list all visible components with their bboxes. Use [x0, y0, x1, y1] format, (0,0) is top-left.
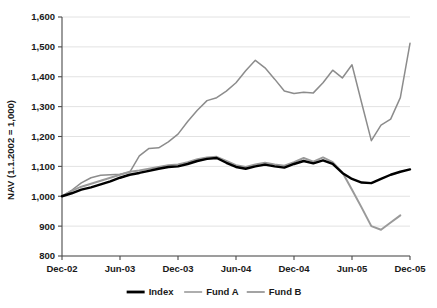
x-tick-label-Jun-05: Jun-05 [337, 263, 368, 274]
y-tick-label-900: 900 [39, 221, 55, 232]
y-tick-label-1400: 1,400 [31, 71, 55, 82]
y-tick-label-1000: 1,000 [31, 191, 55, 202]
y-tick-label-1600: 1,600 [31, 11, 55, 22]
y-tick-label-800: 800 [39, 250, 55, 261]
y-tick-label-1500: 1,500 [31, 41, 55, 52]
chart-legend: IndexFund AFund B [127, 286, 302, 297]
y-axis-title: NAV (1.1.2002 = 1,000) [5, 100, 16, 200]
nav-performance-line-chart: 8009001,0001,1001,2001,3001,4001,5001,60… [0, 0, 437, 308]
chart-background [0, 0, 437, 308]
y-tick-label-1100: 1,100 [31, 161, 55, 172]
legend-label-fund-b: Fund B [269, 286, 302, 297]
legend-label-index: Index [149, 286, 175, 297]
x-tick-label-Jun-04: Jun-04 [221, 263, 252, 274]
x-tick-label-Dec-03: Dec-03 [162, 263, 193, 274]
legend-label-fund-a: Fund A [206, 286, 238, 297]
x-tick-label-Dec-02: Dec-02 [46, 263, 77, 274]
y-tick-label-1300: 1,300 [31, 101, 55, 112]
x-tick-label-Jun-03: Jun-03 [105, 263, 136, 274]
x-tick-label-Dec-05: Dec-05 [394, 263, 426, 274]
x-tick-label-Dec-04: Dec-04 [278, 263, 310, 274]
y-tick-label-1200: 1,200 [31, 131, 55, 142]
chart-container: 8009001,0001,1001,2001,3001,4001,5001,60… [0, 0, 437, 308]
